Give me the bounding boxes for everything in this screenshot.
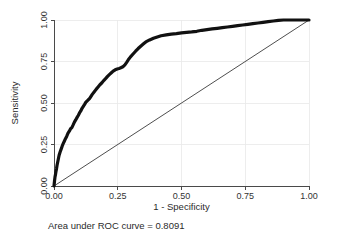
auc-caption: Area under ROC curve = 0.8091 — [48, 220, 185, 231]
x-tick-label: 1.00 — [300, 191, 318, 201]
x-tick-label: 0.50 — [173, 191, 191, 201]
y-tick-label: 1.00 — [39, 11, 49, 29]
y-tick-label: 0.75 — [39, 53, 49, 71]
x-axis-title: 1 - Specificity — [153, 201, 210, 212]
y-tick-label: 0.00 — [39, 177, 49, 195]
roc-figure: 0.000.250.500.751.00 0.000.250.500.751.0… — [0, 0, 345, 239]
y-tick-label: 0.50 — [39, 94, 49, 112]
y-axis-title: Sensitivity — [9, 81, 20, 124]
x-tick-label: 0.25 — [109, 191, 127, 201]
roc-chart-svg: 0.000.250.500.751.00 0.000.250.500.751.0… — [0, 0, 345, 239]
y-tick-label: 0.25 — [39, 136, 49, 154]
x-tick-label: 0.75 — [236, 191, 254, 201]
